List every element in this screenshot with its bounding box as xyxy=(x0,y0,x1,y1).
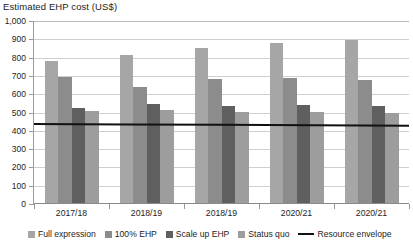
legend-item[interactable]: Full expression xyxy=(28,229,96,239)
y-axis-label: 500 xyxy=(0,109,26,118)
y-axis-label: 0 xyxy=(0,200,26,209)
legend-item[interactable]: Resource envelope xyxy=(298,229,391,239)
x-axis-label: 2018/19 xyxy=(109,208,184,218)
y-axis-tick xyxy=(29,58,33,59)
legend-label: Scale up EHP xyxy=(176,229,230,239)
y-axis-label: 600 xyxy=(0,90,26,99)
y-axis-tick xyxy=(29,149,33,150)
chart-legend: Full expression100% EHPScale up EHPStatu… xyxy=(28,229,392,239)
y-axis-tick xyxy=(29,76,33,77)
x-axis-label: 2018/19 xyxy=(184,208,259,218)
chart-container: Estimated EHP cost (US$) 1,0009008007006… xyxy=(0,0,413,247)
y-axis-label: 700 xyxy=(0,72,26,81)
legend-item[interactable]: Status quo xyxy=(238,229,289,239)
x-axis-label: 2020/21 xyxy=(334,208,409,218)
legend-label: 100% EHP xyxy=(115,229,157,239)
y-axis-label: 300 xyxy=(0,145,26,154)
legend-label: Status quo xyxy=(248,229,289,239)
legend-color-swatch xyxy=(238,231,245,238)
y-axis-tick xyxy=(29,113,33,114)
legend-color-swatch xyxy=(105,231,112,238)
legend-label: Resource envelope xyxy=(317,229,391,239)
legend-color-swatch xyxy=(166,231,173,238)
x-axis-label: 2020/21 xyxy=(259,208,334,218)
legend-line-marker xyxy=(298,233,314,235)
y-axis-tick xyxy=(29,186,33,187)
y-axis-label: 200 xyxy=(0,163,26,172)
y-axis-tick xyxy=(29,204,33,205)
y-axis-label: 900 xyxy=(0,35,26,44)
y-axis-label: 1,000 xyxy=(0,17,26,26)
y-axis-label: 100 xyxy=(0,182,26,191)
y-axis-tick xyxy=(29,39,33,40)
legend-item[interactable]: 100% EHP xyxy=(105,229,157,239)
x-axis-tick xyxy=(409,204,410,209)
resource-envelope-line xyxy=(34,21,409,204)
y-axis-label: 400 xyxy=(0,127,26,136)
y-axis-tick xyxy=(29,167,33,168)
envelope-polyline xyxy=(34,124,409,126)
y-axis-tick xyxy=(29,21,33,22)
legend-color-swatch xyxy=(28,231,35,238)
legend-item[interactable]: Scale up EHP xyxy=(166,229,230,239)
y-axis-tick xyxy=(29,131,33,132)
x-axis-label: 2017/18 xyxy=(34,208,109,218)
legend-label: Full expression xyxy=(38,229,96,239)
chart-title: Estimated EHP cost (US$) xyxy=(3,1,117,12)
y-axis-tick xyxy=(29,94,33,95)
y-axis-label: 800 xyxy=(0,54,26,63)
